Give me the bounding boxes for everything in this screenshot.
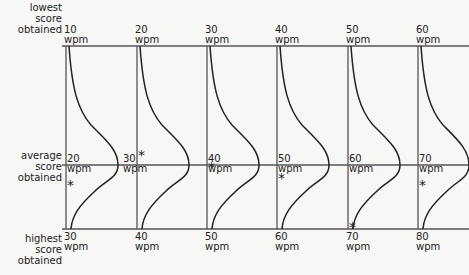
average-score-value: 20wpm (67, 154, 91, 174)
score-marker-icon: * (278, 171, 285, 185)
score-marker-icon: * (138, 148, 145, 162)
score-marker-icon: * (208, 160, 215, 174)
average-score-value: 60wpm (349, 154, 373, 174)
distribution-curve (69, 46, 118, 229)
lowest-score-value: 20wpm (135, 25, 159, 45)
lowest-score-value: 50wpm (346, 25, 370, 45)
lowest-score-label: lowestscoreobtained (0, 2, 62, 35)
highest-score-value: 50wpm (205, 232, 229, 252)
lowest-score-value: 60wpm (416, 25, 440, 45)
average-score-value: 70wpm (419, 154, 443, 174)
score-marker-icon: * (349, 220, 356, 234)
highest-score-value: 70wpm (346, 232, 370, 252)
distribution-curve (210, 46, 259, 229)
highest-score-value: 60wpm (275, 232, 299, 252)
distribution-curve (140, 46, 189, 229)
lowest-score-value: 30wpm (205, 25, 229, 45)
highest-score-value: 40wpm (135, 232, 159, 252)
lowest-score-value: 10wpm (64, 25, 88, 45)
distribution-curve (351, 46, 400, 229)
highest-score-value: 30wpm (64, 232, 88, 252)
highest-score-label: highestscoreobtained (0, 233, 62, 266)
average-score-label: averagescoreobtained (0, 150, 62, 183)
score-marker-icon: * (419, 178, 426, 192)
lowest-score-value: 40wpm (275, 25, 299, 45)
highest-score-value: 80wpm (416, 232, 440, 252)
distribution-curve (280, 46, 329, 229)
distribution-curve (421, 46, 469, 229)
score-marker-icon: * (67, 178, 74, 192)
